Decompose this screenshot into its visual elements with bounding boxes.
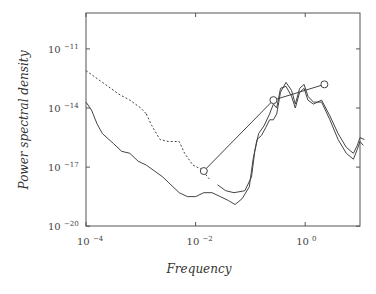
y-tick-label: 10 −17 [48, 161, 79, 173]
upper-spectrum-line [146, 114, 209, 179]
x-axis-label: Frequency [166, 262, 232, 276]
y-tick-label: 10 −14 [48, 102, 79, 114]
x-axis-ticks: 10 −410 −210 0 [77, 13, 317, 247]
circle-marker [321, 81, 328, 88]
y-axis-label: Power spectral density [17, 50, 31, 190]
x-tick-label: 10 −4 [77, 235, 104, 247]
circle-marker [200, 168, 207, 175]
y-tick-label: 10 −20 [48, 220, 79, 232]
upper-spectrum-line [218, 86, 365, 192]
y-tick-label: 10 −11 [48, 43, 79, 55]
plot-frame [86, 13, 360, 226]
marker-line [204, 84, 325, 171]
x-tick-label: 10 0 [296, 235, 316, 247]
circle-marker [270, 97, 277, 104]
y-axis-ticks: 10 −1110 −1410 −1710 −20 [48, 43, 360, 232]
data-series [86, 71, 364, 205]
psd-chart: 10 −1110 −1410 −1710 −20 10 −410 −210 0 … [0, 0, 376, 294]
upper-spectrum-line [86, 71, 146, 114]
x-tick-label: 10 −2 [187, 235, 213, 247]
